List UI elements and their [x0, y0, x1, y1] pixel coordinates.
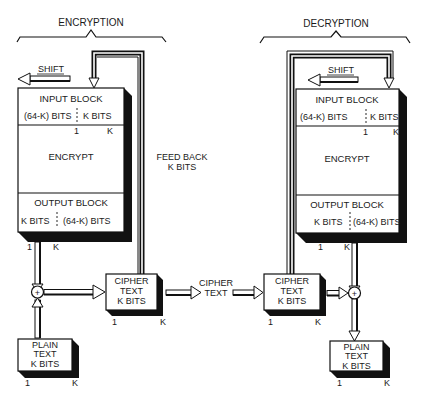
decryption-title: DECRYPTION: [303, 18, 368, 29]
decryption-output-block-title: OUTPUT BLOCK: [310, 199, 384, 210]
decryption-ciphertext-line2: TEXT: [280, 286, 304, 296]
decryption-xor-symbol: +: [352, 289, 357, 299]
encryption-output-block-title: OUTPUT BLOCK: [34, 197, 108, 208]
decryption-input-left-field: (64-K) BITS: [300, 112, 348, 122]
decryption-brace: [260, 31, 410, 43]
channel: CIPHER TEXT: [166, 278, 263, 299]
decryption-ciphertext-line3: K BITS: [278, 296, 307, 306]
encryption-ciphertext-line2: TEXT: [120, 286, 144, 296]
encryption-xor-to-ciphertext-arrow: [44, 285, 105, 299]
encryption-output-index-start: 1: [27, 242, 32, 252]
channel-arrow-in: [233, 286, 263, 299]
encryption-plaintext-index-start: 1: [25, 378, 30, 388]
decryption-ciphertext-index-start: 1: [268, 317, 273, 327]
decryption-input-right-field: K BITS: [370, 112, 399, 122]
encryption-ciphertext-index-start: 1: [112, 317, 117, 327]
decryption-input-index-end: K: [393, 127, 399, 137]
encryption-output-index-end: K: [53, 242, 59, 252]
decryption-output-index-end: K: [344, 242, 350, 252]
encryption-ciphertext-line3: K BITS: [117, 296, 146, 306]
decryption-input-block-title: INPUT BLOCK: [315, 94, 379, 105]
encryption-shift-label: SHIFT: [38, 64, 65, 74]
encryption-feedback-label-2: K BITS: [168, 162, 197, 172]
channel-cipher-label: CIPHER: [199, 278, 234, 288]
decryption-section: DECRYPTION SHIFT INPUT BLOCK (64-K) BITS: [106, 18, 410, 388]
decryption-output-left-field: K BITS: [314, 217, 343, 227]
encryption-input-left-field: (64-K) BITS: [24, 111, 72, 121]
encryption-input-index-start: 1: [74, 126, 79, 136]
decryption-ciphertext-index-end: K: [315, 317, 321, 327]
encryption-encrypt-label: ENCRYPT: [48, 151, 93, 162]
decryption-plaintext-index-end: K: [384, 378, 390, 388]
encryption-output-left-field: K BITS: [21, 216, 50, 226]
decryption-shift-arrow: [308, 74, 358, 86]
encryption-output-to-xor-arrow: [32, 242, 43, 292]
encryption-output-right-field: (64-K) BITS: [63, 216, 111, 226]
encryption-plaintext-line3: K BITS: [31, 359, 60, 369]
decryption-input-index-start: 1: [363, 127, 368, 137]
decryption-ciphertext-to-xor-arrow: [327, 287, 348, 299]
decryption-plaintext-line3: K BITS: [342, 361, 371, 371]
decryption-shift-label: SHIFT: [328, 65, 355, 75]
decryption-xor-to-plaintext-arrow: [349, 299, 360, 341]
encryption-title: ENCRYPTION: [58, 17, 123, 28]
channel-text-label: TEXT: [204, 288, 228, 298]
encryption-ciphertext-line1: CIPHER: [114, 276, 149, 286]
encryption-input-right-field: K BITS: [83, 111, 112, 121]
decryption-plaintext-index-start: 1: [337, 378, 342, 388]
cfb-diagram: ENCRYPTION SHIFT INPUT BLOCK (64-K) BITS…: [0, 0, 424, 398]
encryption-plaintext-line2: TEXT: [33, 349, 57, 359]
encryption-plaintext-index-end: K: [72, 378, 78, 388]
encryption-plaintext-to-xor-arrow: [32, 298, 43, 338]
encryption-xor-symbol: +: [35, 288, 40, 298]
encryption-section: ENCRYPTION SHIFT INPUT BLOCK (64-K) BITS…: [17, 17, 208, 388]
decryption-output-to-xor-arrow: [349, 243, 360, 294]
encryption-brace: [17, 30, 166, 42]
decryption-encrypt-label: ENCRYPT: [324, 153, 369, 164]
encryption-ciphertext-index-end: K: [160, 317, 166, 327]
decryption-output-index-start: 1: [318, 242, 323, 252]
decryption-plaintext-line2: TEXT: [345, 351, 369, 361]
decryption-ciphertext-line1: CIPHER: [275, 276, 310, 286]
encryption-feedback-label-1: FEED BACK: [156, 152, 207, 162]
decryption-output-right-field: (64-K) BITS: [353, 217, 401, 227]
encryption-input-block-title: INPUT BLOCK: [39, 93, 103, 104]
encryption-shift-arrow: [18, 73, 70, 85]
encryption-input-index-end: K: [107, 126, 113, 136]
channel-arrow-out: [166, 286, 201, 299]
